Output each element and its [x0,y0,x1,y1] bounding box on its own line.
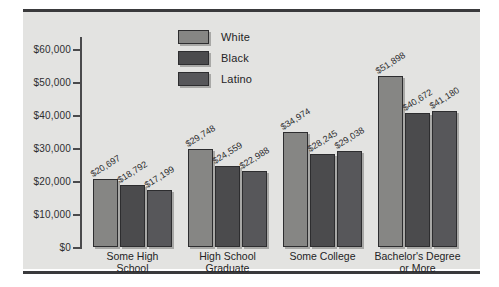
bar: $22,988 [242,171,267,247]
bar: $28,245 [310,154,335,247]
legend-swatch-latino [178,72,209,86]
y-axis-tick-mark [73,115,82,117]
y-axis-tick-label: $40,000 [33,110,71,121]
bar: $20,697 [93,179,118,247]
y-axis-tick-label: $10,000 [33,209,71,220]
plot-area: $0$10,000$20,000$30,000$40,000$50,000$60… [80,37,480,247]
legend-label: Latino [221,73,252,85]
bar-value-label: $51,898 [374,50,407,76]
bar: $29,038 [337,151,362,247]
legend-label: Black [221,52,249,64]
x-axis-category-label: Bachelor's Degree or More [364,250,471,274]
bar: $17,199 [147,190,172,247]
legend-item-white: White [178,26,252,47]
x-axis-category-label: Some College [269,250,376,262]
bar: $18,792 [120,185,145,247]
legend-item-black: Black [178,47,252,68]
y-axis-tick-mark [73,247,82,249]
legend-swatch-white [178,30,209,44]
bar: $41,180 [432,111,457,247]
y-axis-tick-label: $30,000 [33,143,71,154]
y-axis-tick-mark [73,181,82,183]
bar: $40,672 [405,113,430,247]
bar: $34,974 [283,132,308,247]
legend-label: White [221,31,250,43]
y-axis-tick-mark [73,49,82,51]
bar-value-label: $34,974 [279,106,312,132]
bar-value-label: $41,180 [428,85,461,111]
bar-value-label: $40,672 [401,87,434,113]
y-axis-tick-label: $50,000 [33,77,71,88]
chart-legend: WhiteBlackLatino [178,26,252,89]
legend-swatch-black [178,51,209,65]
bar: $29,748 [188,149,213,247]
bar: $51,898 [378,76,403,247]
y-axis-tick-label: $20,000 [33,176,71,187]
y-axis-tick-mark [73,214,82,216]
y-axis-tick-mark [73,82,82,84]
y-axis-tick-mark [73,148,82,150]
bar-value-label: $29,038 [333,125,366,151]
bar-value-label: $29,748 [184,123,217,149]
bar: $24,559 [215,166,240,247]
legend-item-latino: Latino [178,68,252,89]
y-axis-tick-label: $0 [59,242,71,253]
y-axis-line [80,37,82,248]
y-axis-tick-label: $60,000 [33,44,71,55]
x-axis-category-label: Some High School [79,250,186,274]
chart-figure: $0$10,000$20,000$30,000$40,000$50,000$60… [0,0,499,287]
x-axis-category-label: High School Graduate [174,250,281,274]
